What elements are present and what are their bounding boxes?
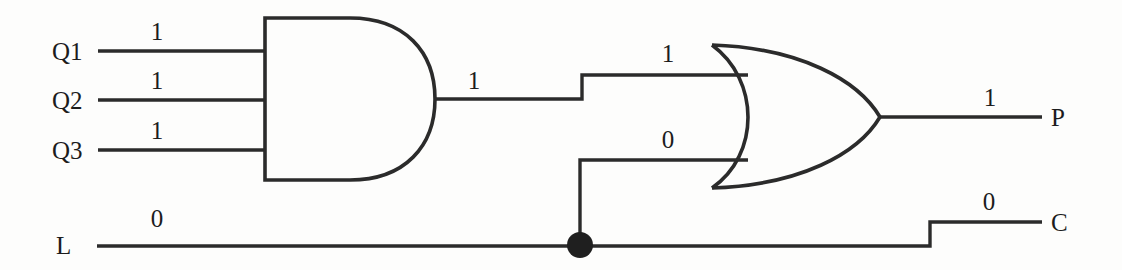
value-q3: 1: [151, 117, 164, 144]
value-q1: 1: [151, 18, 164, 45]
output-label-p: P: [1051, 104, 1065, 131]
output-label-c: C: [1051, 209, 1068, 236]
input-label-q3: Q3: [52, 137, 83, 164]
wire-and-out-to-or-top: [435, 75, 748, 99]
value-p-output: 1: [984, 84, 997, 111]
input-label-q1: Q1: [52, 38, 83, 65]
or-gate-top-lobe: [712, 45, 880, 117]
input-label-l: L: [56, 232, 71, 259]
circuit-canvas: Q1 Q2 Q3 L P C 1 1 1 0 1 1 0 1 0: [0, 0, 1122, 270]
value-c-output: 0: [983, 188, 996, 215]
value-and-output: 1: [468, 67, 481, 94]
logic-circuit-diagram: Q1 Q2 Q3 L P C 1 1 1 0 1 1 0 1 0: [0, 0, 1122, 270]
value-or-top-input: 1: [662, 40, 675, 67]
wire-l-branch-to-or-bottom: [580, 160, 748, 245]
value-or-bottom-input: 0: [662, 126, 675, 153]
and-gate-shape: [265, 18, 435, 180]
junction-dot: [567, 232, 593, 258]
value-q2: 1: [151, 67, 164, 94]
input-label-q2: Q2: [52, 87, 83, 114]
or-gate-back-arc: [712, 45, 748, 188]
value-l: 0: [151, 205, 164, 232]
or-gate-bottom-lobe: [712, 117, 880, 188]
